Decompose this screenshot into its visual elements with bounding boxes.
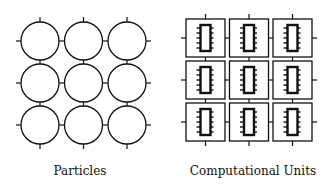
particle xyxy=(108,17,151,64)
chip-icon xyxy=(201,109,211,135)
computational-units-grid xyxy=(181,14,317,146)
particle-circle xyxy=(65,64,103,102)
particle xyxy=(65,64,109,106)
computational-unit xyxy=(181,14,230,61)
chip-icon xyxy=(244,109,254,135)
computational-unit xyxy=(230,103,274,146)
particle-circle xyxy=(108,22,146,60)
computational-unit xyxy=(181,61,230,103)
particle xyxy=(108,106,151,149)
computational-unit xyxy=(273,14,317,61)
particle xyxy=(16,64,65,106)
particle-circle xyxy=(21,106,59,144)
particle-circle xyxy=(65,22,103,60)
particle xyxy=(65,106,109,149)
computational-unit xyxy=(273,103,317,146)
particle xyxy=(16,106,65,149)
chip-icon xyxy=(244,25,254,51)
computational-unit xyxy=(230,61,274,103)
chip-icon xyxy=(244,67,254,93)
particles-grid xyxy=(16,17,151,149)
computational-unit xyxy=(181,103,230,146)
chip-icon xyxy=(288,25,298,51)
particle xyxy=(16,17,65,64)
computational-units-label: Computational Units xyxy=(190,164,316,178)
chip-icon xyxy=(288,109,298,135)
diagram-canvas xyxy=(0,0,334,191)
particle-circle xyxy=(108,106,146,144)
particle xyxy=(108,64,151,106)
particles-label: Particles xyxy=(54,164,107,178)
particle-circle xyxy=(65,106,103,144)
particle-circle xyxy=(21,64,59,102)
computational-unit xyxy=(230,14,274,61)
particle-circle xyxy=(21,22,59,60)
particle-circle xyxy=(108,64,146,102)
chip-icon xyxy=(201,67,211,93)
chip-icon xyxy=(201,25,211,51)
particle xyxy=(65,17,109,64)
chip-icon xyxy=(288,67,298,93)
computational-unit xyxy=(273,61,317,103)
